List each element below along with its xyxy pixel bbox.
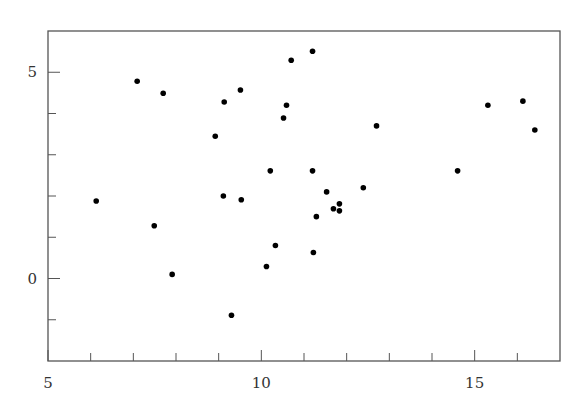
data-point <box>273 243 279 249</box>
data-point <box>310 48 316 54</box>
data-point <box>93 198 99 204</box>
data-point <box>310 168 316 174</box>
data-point <box>267 168 273 174</box>
data-point <box>337 201 343 207</box>
data-point <box>337 208 343 214</box>
x-tick-label: 5 <box>43 374 53 392</box>
y-tick-label: 5 <box>27 63 37 81</box>
data-point <box>212 133 218 139</box>
y-tick-label: 0 <box>27 270 37 288</box>
plot-frame <box>48 31 560 361</box>
data-points <box>93 48 537 318</box>
data-point <box>361 185 367 191</box>
data-point <box>311 250 317 256</box>
data-point <box>331 206 337 212</box>
data-point <box>284 102 290 108</box>
x-tick-label: 15 <box>465 374 484 392</box>
data-point <box>160 90 166 96</box>
data-point <box>324 189 330 195</box>
data-point <box>485 102 491 108</box>
data-point <box>238 87 244 93</box>
data-point <box>281 115 287 121</box>
axis-tick-labels: 5101505 <box>27 63 484 392</box>
data-point <box>264 264 270 270</box>
data-point <box>221 193 227 199</box>
data-point <box>532 127 538 133</box>
scatter-chart: 5101505 <box>0 0 587 418</box>
x-tick-label: 10 <box>252 374 271 392</box>
data-point <box>314 214 320 220</box>
data-point <box>520 98 526 104</box>
data-point <box>288 57 294 63</box>
data-point <box>221 99 227 105</box>
data-point <box>151 223 157 229</box>
data-point <box>238 197 244 203</box>
data-point <box>169 272 175 278</box>
data-point <box>229 312 235 318</box>
data-point <box>455 168 461 174</box>
data-point <box>374 123 380 129</box>
data-point <box>134 79 140 85</box>
